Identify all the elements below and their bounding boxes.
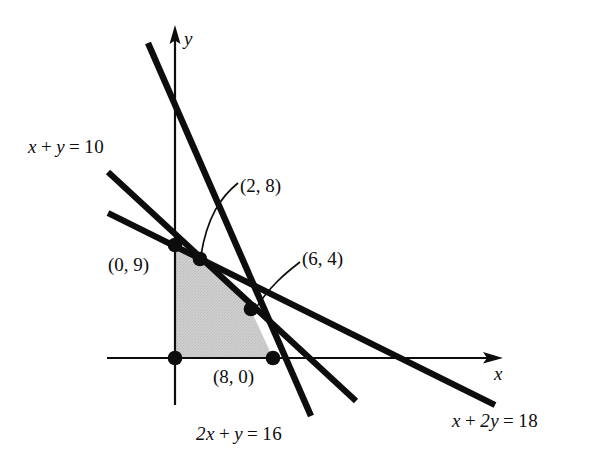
vertex-label-6-4: (6, 4) bbox=[302, 248, 343, 270]
equation-term: 2x bbox=[196, 423, 215, 444]
equation-term: + bbox=[37, 136, 56, 157]
equation-term: + bbox=[215, 423, 234, 444]
vertex-dot-0-9 bbox=[168, 238, 183, 253]
equation-label-x-plus-y-10: x+y=10 bbox=[28, 136, 104, 158]
linear-programming-figure: y x x+y=10 2x+y=16 x+2y=18 (0, 9) (2, 8)… bbox=[0, 0, 599, 475]
equation-term: y bbox=[234, 423, 243, 444]
equation-label-2x-plus-y-16: 2x+y=16 bbox=[196, 423, 282, 445]
equation-term: = bbox=[499, 410, 518, 431]
equation-term: y bbox=[56, 136, 65, 157]
vertex-label-0-9: (0, 9) bbox=[108, 254, 149, 276]
vertex-dot-origin bbox=[168, 351, 183, 366]
y-axis-label: y bbox=[184, 28, 192, 50]
equation-term: 10 bbox=[84, 136, 104, 157]
equation-term: 2y bbox=[480, 410, 499, 431]
equation-term: x bbox=[28, 136, 37, 157]
equation-term: x bbox=[452, 410, 461, 431]
equation-term: 18 bbox=[518, 410, 538, 431]
vertex-label-8-0: (8, 0) bbox=[213, 366, 254, 388]
vertex-dot-6-4 bbox=[244, 302, 259, 317]
equation-label-x-plus-2y-18: x+2y=18 bbox=[452, 410, 538, 432]
line-x-plus-2y-18 bbox=[108, 213, 495, 405]
vertex-dot-2-8 bbox=[193, 252, 208, 267]
equation-term: 16 bbox=[262, 423, 282, 444]
equation-term: = bbox=[65, 136, 84, 157]
equation-term: + bbox=[461, 410, 480, 431]
equation-term: = bbox=[243, 423, 262, 444]
leader-line-point-2-8 bbox=[200, 183, 238, 262]
x-axis-label: x bbox=[494, 363, 502, 385]
graph-canvas bbox=[0, 0, 599, 475]
vertex-label-2-8: (2, 8) bbox=[240, 175, 281, 197]
vertex-dot-8-0 bbox=[266, 351, 281, 366]
